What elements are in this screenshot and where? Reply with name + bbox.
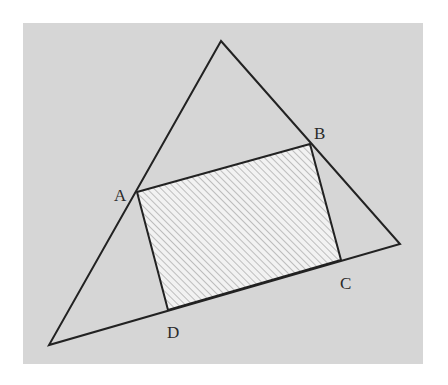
geometry-figure: A B C D	[0, 0, 448, 385]
vertex-label-d: D	[167, 323, 179, 342]
vertex-label-c: C	[340, 274, 351, 293]
vertex-label-a: A	[114, 186, 127, 205]
vertex-label-b: B	[314, 124, 325, 143]
